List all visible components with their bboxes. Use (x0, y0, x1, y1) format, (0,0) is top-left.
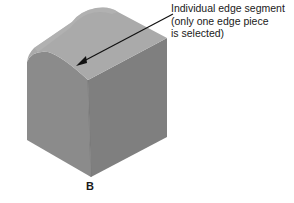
view-label: B (86, 180, 94, 192)
callout-line-3: is selected) (171, 27, 293, 40)
callout-line-2: (only one edge piece (171, 15, 293, 28)
callout-text: Individual edge segment (only one edge p… (171, 2, 293, 40)
callout-line-1: Individual edge segment (171, 2, 293, 15)
